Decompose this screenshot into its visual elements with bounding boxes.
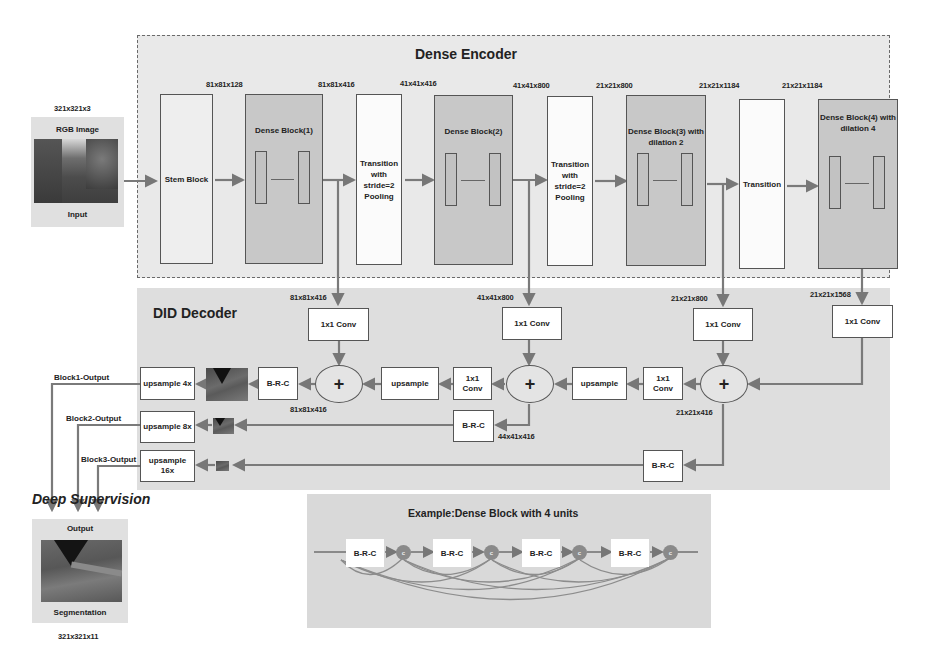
sum-dim-label: 81x81x416 — [290, 405, 327, 414]
skip-dim-label: 21x21x1568 — [810, 290, 851, 299]
rgb-street-image — [34, 139, 118, 203]
conv1x1-skip-4: 1x1 Conv — [832, 305, 893, 338]
dense-block-1-label: Dense Block(1) — [255, 125, 313, 136]
dim-label: 41x41x800 — [513, 81, 550, 90]
dim-label: 41x41x416 — [400, 79, 437, 88]
dense-block-2-label: Dense Block(2) — [445, 126, 503, 137]
segmentation-image — [41, 540, 122, 602]
upsample-block-2: upsample — [572, 367, 627, 400]
dense-unit — [445, 153, 457, 206]
example-brc-unit-3: B-R-C — [522, 539, 560, 567]
unit-ellipsis-line — [653, 180, 677, 181]
input-dim-label: 321x321x3 — [54, 104, 91, 113]
brc-block-1: B-R-C — [258, 367, 298, 400]
output-dim-label: 321x321x11 — [58, 632, 98, 641]
unit-ellipsis-line — [845, 183, 869, 184]
output-top-label: Output — [32, 524, 128, 533]
brc-block-2: B-R-C — [453, 410, 494, 442]
input-image-card: RGB Image Input — [31, 117, 124, 227]
upsample-16x-block: upsample 16x — [140, 450, 195, 482]
block1-prediction-thumbnail — [206, 368, 248, 401]
brc-block-3: B-R-C — [643, 450, 683, 482]
upsample-8x-block: upsample 8x — [140, 411, 195, 443]
input-bottom-label: Input — [31, 210, 124, 219]
block3-output-label: Block3-Output — [81, 455, 136, 464]
sum-node-1: + — [315, 365, 363, 403]
deep-supervision-title: Deep Supervision — [32, 491, 150, 507]
example-title: Example:Dense Block with 4 units — [408, 507, 578, 519]
skip-dim-label: 41x41x800 — [477, 293, 514, 302]
dense-unit — [829, 156, 841, 209]
upsample-block-1: upsample — [381, 367, 439, 400]
example-brc-unit-2: B-R-C — [433, 539, 471, 567]
sum-dim-label: 44x41x416 — [498, 432, 535, 441]
unit-ellipsis-line — [271, 179, 294, 180]
input-top-label: RGB Image — [31, 125, 124, 134]
conv1x1-mid-1: 1x1 Conv — [453, 367, 492, 400]
dim-label: 81x81x416 — [318, 80, 355, 89]
conv1x1-skip-2: 1x1 Conv — [502, 307, 562, 340]
example-brc-unit-1: B-R-C — [346, 539, 384, 567]
dense-block-3-label: Dense Block(3) with dilation 2 — [627, 126, 705, 148]
example-concat-node-4: c — [663, 545, 678, 560]
dim-label: 81x81x128 — [206, 80, 243, 89]
dense-unit — [637, 153, 649, 206]
conv1x1-skip-1: 1x1 Conv — [308, 308, 369, 341]
dense-unit — [298, 151, 310, 204]
dense-unit — [681, 153, 693, 206]
dense-unit — [489, 153, 501, 206]
sum-node-2: + — [506, 365, 554, 403]
transition-block-1: Transition with stride=2 Pooling — [356, 94, 402, 265]
skip-dim-label: 21x21x800 — [671, 294, 708, 303]
dense-unit — [255, 151, 267, 204]
dim-label: 21x21x1184 — [699, 81, 739, 90]
dense-unit — [873, 156, 885, 209]
block2-prediction-thumbnail — [213, 418, 234, 434]
dim-label: 21x21x800 — [596, 81, 633, 90]
unit-ellipsis-line — [461, 180, 485, 181]
sum-node-3: + — [700, 365, 748, 403]
block3-prediction-thumbnail — [216, 461, 229, 471]
transition-block-2: Transition with stride=2 Pooling — [547, 96, 593, 266]
output-segmentation-card: Output Segmentation — [32, 519, 128, 623]
conv1x1-skip-3: 1x1 Conv — [693, 308, 753, 341]
dense-block-4-label: Dense Block(4) with dilation 4 — [819, 112, 897, 134]
example-concat-node-1: c — [396, 545, 411, 560]
transition-block-3: Transition — [739, 99, 785, 269]
block2-output-label: Block2-Output — [66, 414, 121, 423]
example-concat-node-2: c — [484, 545, 499, 560]
skip-dim-label: 81x81x416 — [290, 293, 327, 302]
example-brc-unit-4: B-R-C — [611, 539, 649, 567]
sum-dim-label: 21x21x416 — [676, 408, 713, 417]
block1-output-label: Block1-Output — [54, 373, 109, 382]
example-concat-node-3: c — [572, 545, 587, 560]
output-bottom-label: Segmentation — [32, 608, 128, 617]
upsample-4x-block: upsample 4x — [140, 367, 195, 400]
stem-block: Stem Block — [160, 94, 213, 264]
dim-label: 21x21x1184 — [782, 81, 822, 90]
conv1x1-mid-2: 1x1 Conv — [643, 367, 683, 400]
